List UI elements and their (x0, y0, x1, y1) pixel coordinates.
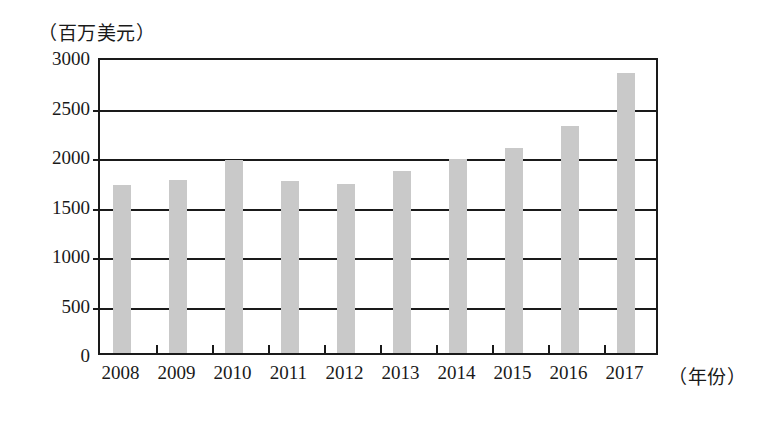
y-axis-tick-label: 0 (20, 346, 90, 365)
y-axis-tick-label-group: 050010001500200025003000 (18, 58, 90, 355)
x-axis-tick-mark (268, 345, 270, 354)
y-axis-tick-mark (93, 209, 100, 211)
bar (617, 73, 635, 353)
x-axis-tick-label: 2017 (589, 362, 659, 384)
x-axis-caption: （年份） (668, 362, 746, 389)
bar (561, 126, 579, 353)
y-axis-tick-label: 1000 (20, 247, 90, 266)
x-axis-tick-mark (324, 345, 326, 354)
x-axis-tick-mark (156, 345, 158, 354)
y-axis-tick-mark (93, 308, 100, 310)
y-axis-tick-mark (93, 110, 100, 112)
x-axis-tick-mark (604, 345, 606, 354)
x-axis-tick-mark (548, 345, 550, 354)
bar (449, 159, 467, 353)
y-axis-tick-label: 2500 (20, 98, 90, 117)
bar (113, 185, 131, 353)
x-axis-tick-mark (380, 345, 382, 354)
x-axis-tick-mark (212, 345, 214, 354)
bar (393, 171, 411, 353)
y-axis-tick-label: 2000 (20, 148, 90, 167)
y-axis-tick-mark (93, 258, 100, 260)
bar-chart-figure: （百万美元） 050010001500200025003000 20082009… (0, 0, 773, 425)
y-axis-tick-label: 500 (20, 296, 90, 315)
bar (281, 181, 299, 353)
bar (169, 180, 187, 353)
y-axis-unit-label: （百万美元） (38, 18, 155, 45)
x-axis-tick-mark-group (100, 345, 656, 354)
x-axis-tick-mark (436, 345, 438, 354)
plot-area (98, 58, 658, 355)
y-axis-tick-label: 1500 (20, 197, 90, 216)
bar-group (100, 60, 656, 353)
x-axis-tick-mark (492, 345, 494, 354)
bar (337, 184, 355, 353)
y-axis-tick-mark (93, 159, 100, 161)
bar (225, 160, 243, 353)
x-axis-tick-label-group: 2008200920102011201220132014201520162017 (98, 362, 658, 390)
bar (505, 148, 523, 353)
y-axis-tick-label: 3000 (20, 49, 90, 68)
